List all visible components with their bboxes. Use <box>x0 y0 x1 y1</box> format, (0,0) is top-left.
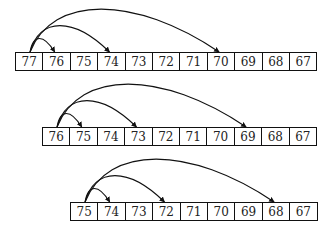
array-cell: 68 <box>262 202 290 221</box>
arc-layer <box>0 0 334 233</box>
array-cell: 75 <box>70 52 98 71</box>
jump-arrow <box>57 84 246 127</box>
array-cell: 71 <box>179 127 207 146</box>
array-cell: 67 <box>289 127 317 146</box>
array-cell: 72 <box>152 52 180 71</box>
array-cell: 69 <box>234 127 262 146</box>
array-cell: 71 <box>180 202 208 221</box>
array-cell: 70 <box>206 127 234 146</box>
array-cell: 74 <box>97 127 125 146</box>
array-cell: 72 <box>152 127 180 146</box>
array-cell: 70 <box>207 52 235 71</box>
array-cell: 68 <box>262 52 290 71</box>
array-cell: 70 <box>207 202 235 221</box>
array-cell: 74 <box>97 202 125 221</box>
array-cell: 72 <box>152 202 180 221</box>
array-cell: 69 <box>234 202 262 221</box>
array-cell: 67 <box>289 202 317 221</box>
array-cell: 75 <box>70 202 98 221</box>
array-cell: 76 <box>42 127 70 146</box>
array-cell: 76 <box>42 52 70 71</box>
array-cell: 67 <box>289 52 317 71</box>
array-cell: 73 <box>125 202 153 221</box>
array-cell: 77 <box>15 52 43 71</box>
array-cell: 73 <box>125 52 153 71</box>
array-cell: 71 <box>179 52 207 71</box>
array-cell: 74 <box>97 52 125 71</box>
array-cell: 73 <box>124 127 152 146</box>
jump-arrow <box>85 159 274 202</box>
array-cell: 69 <box>234 52 262 71</box>
array-cell: 75 <box>69 127 97 146</box>
array-cell: 68 <box>261 127 289 146</box>
jump-arrow <box>30 9 219 52</box>
